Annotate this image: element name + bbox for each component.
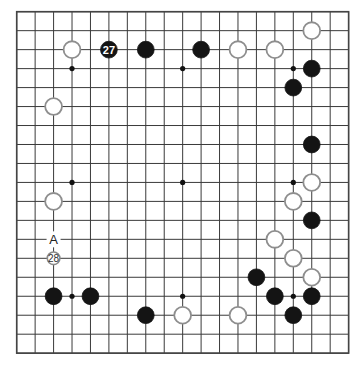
- white-stone-circle: [303, 22, 320, 39]
- white-stone: [303, 22, 320, 39]
- white-stone-circle: [303, 269, 320, 286]
- white-stone: [285, 250, 302, 267]
- go-board: A 2728: [0, 0, 360, 366]
- move-number: 27: [103, 44, 115, 56]
- black-stone-circle: [303, 60, 320, 77]
- black-stone: [303, 136, 320, 153]
- board-label: A: [47, 231, 61, 247]
- black-stone: [266, 288, 283, 305]
- black-stone-circle: [82, 288, 99, 305]
- black-stone-circle: [193, 41, 210, 58]
- white-stone: [230, 307, 247, 324]
- white-stone-circle: [266, 41, 283, 58]
- white-stone: [303, 174, 320, 191]
- white-stone: [285, 193, 302, 210]
- white-stone: [174, 307, 191, 324]
- white-stone: [64, 41, 81, 58]
- white-stone-circle: [303, 174, 320, 191]
- black-stone-circle: [266, 288, 283, 305]
- black-stone: 27: [101, 41, 118, 58]
- black-stone: [285, 307, 302, 324]
- black-stone: [137, 307, 154, 324]
- star-point: [180, 294, 185, 299]
- white-stone-circle: [285, 193, 302, 210]
- white-stone: [45, 98, 62, 115]
- white-stone: [266, 231, 283, 248]
- star-point: [69, 66, 74, 71]
- star-point: [291, 66, 296, 71]
- star-point: [291, 180, 296, 185]
- white-stone-circle: [230, 41, 247, 58]
- white-stone: [230, 41, 247, 58]
- white-stone-circle: [174, 307, 191, 324]
- black-stone-circle: [137, 41, 154, 58]
- black-stone: [45, 288, 62, 305]
- black-stone-circle: [137, 307, 154, 324]
- white-stone: [303, 269, 320, 286]
- star-point: [180, 66, 185, 71]
- label-text: A: [49, 232, 58, 247]
- position-labels: A: [47, 231, 61, 247]
- black-stone: [82, 288, 99, 305]
- white-stone-circle: [230, 307, 247, 324]
- black-stone: [303, 288, 320, 305]
- black-stone-circle: [303, 212, 320, 229]
- move-number: 28: [48, 253, 60, 264]
- star-point: [69, 294, 74, 299]
- black-stone-circle: [45, 288, 62, 305]
- white-stone-circle: [64, 41, 81, 58]
- black-stone: [285, 79, 302, 96]
- black-stone: [303, 212, 320, 229]
- white-stone: [45, 193, 62, 210]
- black-stone-circle: [303, 288, 320, 305]
- white-stone-circle: [45, 193, 62, 210]
- black-stone: [137, 41, 154, 58]
- black-stone-circle: [285, 79, 302, 96]
- black-stone-circle: [248, 269, 265, 286]
- star-point: [291, 294, 296, 299]
- white-stone-circle: [285, 250, 302, 267]
- white-stone: 28: [47, 252, 60, 265]
- black-stone: [303, 60, 320, 77]
- black-stone-circle: [303, 136, 320, 153]
- star-point: [69, 180, 74, 185]
- white-stone-circle: [266, 231, 283, 248]
- black-stone-circle: [285, 307, 302, 324]
- white-stone-circle: [45, 98, 62, 115]
- black-stone: [193, 41, 210, 58]
- black-stone: [248, 269, 265, 286]
- star-point: [180, 180, 185, 185]
- white-stone: [266, 41, 283, 58]
